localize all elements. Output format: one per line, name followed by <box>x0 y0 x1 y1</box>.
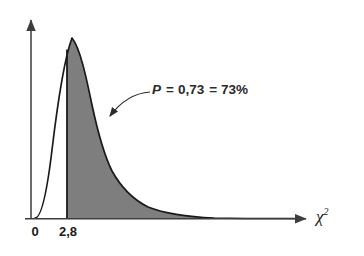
annotation-percent: 73% <box>221 82 248 97</box>
chi-square-distribution-figure: P=0,73=73% 0 2,8 χ2 <box>0 0 364 256</box>
probability-annotation-label: P=0,73=73% <box>152 82 248 97</box>
x-axis-title: χ2 <box>314 206 328 226</box>
shaded-region <box>35 38 294 219</box>
chi-exponent: 2 <box>323 206 328 217</box>
x-tick-label-0: 0 <box>31 224 38 239</box>
annotation-equals-1: = <box>166 82 174 97</box>
annotation-value: 0,73 <box>178 82 205 97</box>
annotation-symbol: P <box>152 82 162 97</box>
x-tick-label-2-8: 2,8 <box>59 224 77 239</box>
annotation-leader-line <box>110 92 150 116</box>
chart-canvas: P=0,73=73% 0 2,8 χ2 <box>0 0 364 256</box>
annotation-equals-2: = <box>209 82 217 97</box>
